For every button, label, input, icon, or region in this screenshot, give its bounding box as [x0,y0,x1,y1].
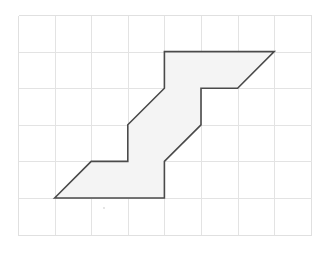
figure-canvas [0,0,328,263]
figure-marks [103,207,105,209]
grid-polygon-figure [0,0,328,263]
polygon-shape [55,52,275,198]
speck [103,207,105,209]
